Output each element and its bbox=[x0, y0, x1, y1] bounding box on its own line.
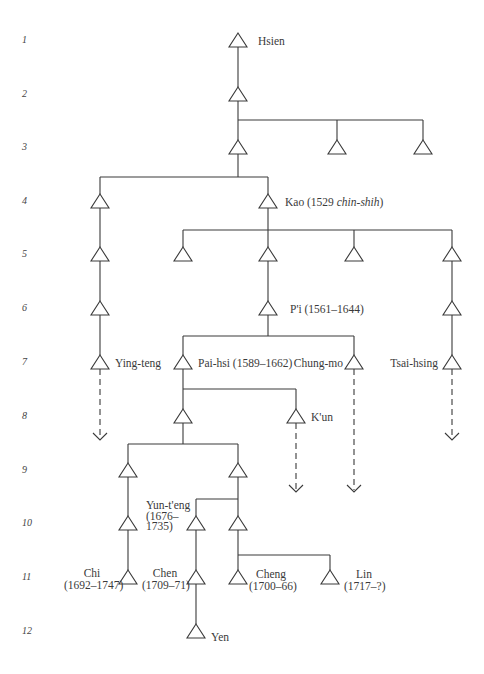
person-label-yun-teng: Yun-t'eng (1676– 1735) bbox=[146, 500, 190, 532]
cheng-dates: (1700–66) bbox=[249, 580, 293, 592]
person-label-chen: Chen (1709–71) bbox=[142, 567, 188, 591]
person-label-ying-teng: Ying-teng bbox=[115, 357, 161, 369]
person-label-kao: Kao (1529 chin-shih) bbox=[285, 196, 383, 208]
lin-dates: (1717–?) bbox=[344, 580, 384, 592]
generation-number: 1 bbox=[22, 34, 38, 45]
generation-number: 5 bbox=[22, 248, 38, 259]
person-label-chung-mo: Chung-mo bbox=[294, 357, 343, 369]
chen-dates: (1709–71) bbox=[142, 579, 188, 591]
chi-name: Chi bbox=[64, 567, 120, 579]
yun-teng-name: Yun-t'eng bbox=[146, 500, 190, 511]
person-label-pi: P'i (1561–1644) bbox=[290, 303, 364, 315]
generation-number: 2 bbox=[22, 88, 38, 99]
person-label-kun: K'un bbox=[311, 411, 333, 423]
generation-number: 9 bbox=[22, 464, 38, 475]
chen-name: Chen bbox=[142, 567, 188, 579]
generation-number: 3 bbox=[22, 141, 38, 152]
person-label-yen: Yen bbox=[211, 631, 229, 643]
person-label-lin: Lin (1717–?) bbox=[344, 568, 384, 592]
genealogy-diagram: 1 2 3 4 5 6 7 8 9 10 11 12 Hsien Kao (15… bbox=[0, 0, 484, 674]
kao-name: Kao (1529 bbox=[285, 196, 337, 208]
kao-close: ) bbox=[380, 196, 384, 208]
generation-number: 8 bbox=[22, 410, 38, 421]
person-label-hsien: Hsien bbox=[258, 35, 285, 47]
descent-arrow-icon bbox=[347, 485, 361, 492]
yun-teng-dates-end: 1735) bbox=[146, 521, 190, 532]
person-label-chi: Chi (1692–1747) bbox=[64, 567, 120, 591]
generation-number: 10 bbox=[22, 517, 38, 528]
person-label-pai-hsi: Pai-hsi (1589–1662) bbox=[198, 357, 292, 369]
lin-name: Lin bbox=[344, 568, 384, 580]
chi-dates: (1692–1747) bbox=[64, 579, 120, 591]
person-label-tsai-hsing: Tsai-hsing bbox=[390, 357, 438, 369]
person-label-cheng: Cheng (1700–66) bbox=[249, 568, 293, 592]
cheng-name: Cheng bbox=[249, 568, 293, 580]
kao-note: chin-shih bbox=[337, 196, 380, 208]
generation-number: 4 bbox=[22, 195, 38, 206]
generation-number: 6 bbox=[22, 302, 38, 313]
generation-number: 12 bbox=[22, 625, 38, 636]
generation-number: 7 bbox=[22, 356, 38, 367]
generation-number: 11 bbox=[22, 571, 38, 582]
